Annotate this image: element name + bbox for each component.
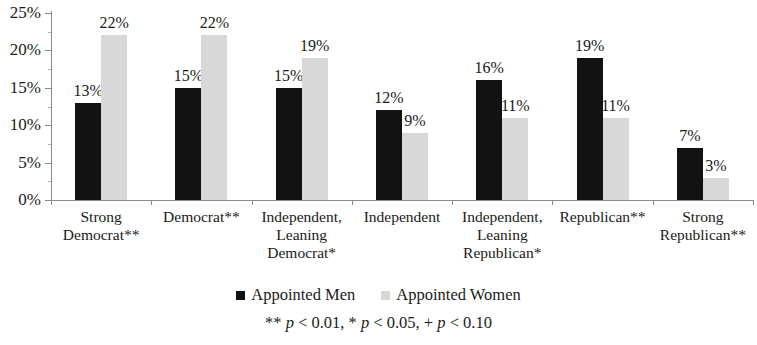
bar-women[interactable] xyxy=(101,35,127,200)
x-tick-mark xyxy=(51,200,52,205)
bar-men[interactable] xyxy=(175,88,201,200)
x-category-label: StrongRepublican** xyxy=(645,208,757,244)
bar-value-label: 19% xyxy=(568,38,612,54)
bar-wrapper xyxy=(175,88,201,200)
bar-men[interactable] xyxy=(75,103,101,200)
legend-swatch-men-icon xyxy=(236,291,245,300)
x-tick-mark xyxy=(352,200,353,205)
y-tick-minor xyxy=(48,69,51,70)
bar-value-label: 22% xyxy=(192,15,236,31)
y-tick-label: 20% xyxy=(10,41,41,58)
footnote-prefix-a: ** xyxy=(265,313,286,332)
bar-value-label: 22% xyxy=(92,15,136,31)
bar-value-label: 7% xyxy=(668,128,712,144)
bar-value-label: 11% xyxy=(594,98,638,114)
x-tick-mark xyxy=(452,200,453,205)
y-tick-minor xyxy=(48,144,51,145)
x-tick-mark xyxy=(252,200,253,205)
bar-women[interactable] xyxy=(703,178,729,200)
y-axis-line xyxy=(51,11,52,202)
y-tick-label: 25% xyxy=(10,4,41,21)
bar-value-label: 9% xyxy=(393,113,437,129)
bar-value-label: 19% xyxy=(293,38,337,54)
significance-footnote: ** p < 0.01, * p < 0.05, + p < 0.10 xyxy=(0,313,757,333)
y-tick-mark xyxy=(45,125,51,126)
y-tick-label: 10% xyxy=(10,116,41,133)
bar-women[interactable] xyxy=(603,118,629,200)
y-tick-mark xyxy=(45,163,51,164)
footnote-text-c: < 0.10 xyxy=(446,313,492,332)
bar-wrapper xyxy=(677,148,703,200)
bar-men[interactable] xyxy=(276,88,302,200)
bar-wrapper xyxy=(101,35,127,200)
y-tick-label: 5% xyxy=(18,154,41,171)
footnote-p-b: p xyxy=(361,313,369,332)
y-tick-mark xyxy=(45,88,51,89)
y-tick-minor xyxy=(48,181,51,182)
bar-men[interactable] xyxy=(577,58,603,200)
footnote-p-a: p xyxy=(286,313,294,332)
y-tick-mark xyxy=(45,13,51,14)
bar-wrapper xyxy=(276,88,302,200)
bar-wrapper xyxy=(603,118,629,200)
bar-value-label: 3% xyxy=(694,158,738,174)
bar-wrapper xyxy=(402,133,428,200)
legend-item-appointed-women[interactable]: Appointed Women xyxy=(381,286,520,304)
x-category-label: Republican** xyxy=(544,208,660,226)
bar-women[interactable] xyxy=(402,133,428,200)
bar-value-label: 12% xyxy=(367,90,411,106)
legend-swatch-women-icon xyxy=(381,291,390,300)
bar-women[interactable] xyxy=(502,118,528,200)
bar-value-label: 11% xyxy=(493,98,537,114)
bar-wrapper xyxy=(75,103,101,200)
bar-wrapper xyxy=(201,35,227,200)
y-tick-minor xyxy=(48,32,51,33)
x-category-label: StrongDemocrat** xyxy=(43,208,159,244)
bar-wrapper xyxy=(302,58,328,200)
bar-wrapper xyxy=(502,118,528,200)
x-tick-mark xyxy=(753,200,754,205)
bar-wrapper xyxy=(703,178,729,200)
x-tick-mark xyxy=(552,200,553,205)
footnote-p-c: p xyxy=(437,313,445,332)
bar-chart: 25%20%15%10%5%0% 13%22%15%22%15%19%12%9%… xyxy=(0,0,757,345)
chart-legend: Appointed Men Appointed Women xyxy=(0,286,757,304)
x-category-label: Independent,LeaningDemocrat* xyxy=(244,208,360,262)
y-tick-minor xyxy=(48,107,51,108)
x-tick-mark xyxy=(653,200,654,205)
bar-women[interactable] xyxy=(201,35,227,200)
legend-item-appointed-men[interactable]: Appointed Men xyxy=(236,286,355,304)
footnote-text-a: < 0.01, * xyxy=(294,313,361,332)
x-tick-mark xyxy=(151,200,152,205)
bar-women[interactable] xyxy=(302,58,328,200)
y-tick-label: 0% xyxy=(18,191,41,208)
x-axis-line xyxy=(51,200,753,201)
legend-label-men: Appointed Men xyxy=(251,286,355,304)
x-category-label: Independent,LeaningRepublican* xyxy=(444,208,560,262)
bar-wrapper xyxy=(577,58,603,200)
legend-label-women: Appointed Women xyxy=(396,286,520,304)
y-tick-label: 15% xyxy=(10,79,41,96)
bar-men[interactable] xyxy=(677,148,703,200)
x-category-label: Independent xyxy=(344,208,460,226)
bar-value-label: 16% xyxy=(467,60,511,76)
x-category-label: Democrat** xyxy=(143,208,259,226)
y-tick-mark xyxy=(45,50,51,51)
footnote-text-b: < 0.05, + xyxy=(369,313,437,332)
